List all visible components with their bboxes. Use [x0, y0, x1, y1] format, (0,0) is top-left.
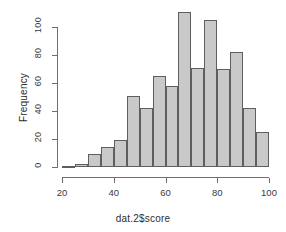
- x-tick-label: 40: [99, 187, 129, 198]
- histogram-bar: [114, 140, 127, 167]
- x-axis-label: dat.2$score: [0, 213, 286, 224]
- y-tick-mark: [52, 55, 57, 56]
- y-tick-label: 80: [33, 41, 43, 65]
- y-tick-label: 60: [33, 69, 43, 93]
- y-tick-label: 20: [33, 125, 43, 149]
- histogram-plot: 020406080100 20406080100 Frequency dat.2…: [0, 0, 286, 232]
- y-tick-label: 40: [33, 97, 43, 121]
- x-tick-mark: [269, 178, 270, 183]
- y-tick-mark: [52, 83, 57, 84]
- y-tick-mark: [52, 139, 57, 140]
- histogram-bar: [101, 147, 114, 167]
- histogram-bar: [217, 69, 230, 167]
- histogram-bar: [75, 164, 88, 167]
- histogram-bar: [88, 154, 101, 167]
- histogram-bar: [243, 108, 256, 167]
- histogram-bar: [204, 20, 217, 167]
- x-tick-label: 80: [202, 187, 232, 198]
- histogram-bar: [230, 52, 243, 167]
- histogram-bar: [62, 166, 75, 168]
- x-tick-label: 100: [254, 187, 284, 198]
- histogram-bar: [178, 12, 191, 167]
- x-tick-mark: [217, 178, 218, 183]
- histogram-bar: [140, 108, 153, 167]
- y-tick-label: 100: [33, 13, 43, 37]
- y-axis-label: Frequency: [18, 73, 29, 122]
- y-tick-mark: [52, 111, 57, 112]
- x-tick-mark: [114, 178, 115, 183]
- histogram-bar: [153, 76, 166, 167]
- x-tick-mark: [62, 178, 63, 183]
- histogram-bar: [166, 86, 179, 167]
- histogram-bar: [127, 96, 140, 167]
- x-tick-label: 60: [151, 187, 181, 198]
- y-axis-line: [57, 27, 58, 168]
- y-tick-label: 0: [33, 153, 43, 177]
- y-tick-mark: [52, 167, 57, 168]
- y-tick-mark: [52, 27, 57, 28]
- x-tick-label: 20: [47, 187, 77, 198]
- x-tick-mark: [166, 178, 167, 183]
- histogram-bar: [191, 68, 204, 167]
- histogram-bar: [256, 132, 269, 167]
